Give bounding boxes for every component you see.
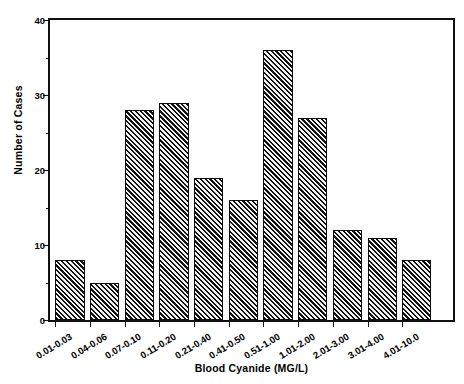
x-axis-tick-label: 4.01-10.0 xyxy=(381,331,421,361)
x-axis-tick-label: 0.04-0.06 xyxy=(68,331,108,361)
x-axis-tick xyxy=(125,320,126,327)
y-axis-minor-tick xyxy=(46,283,50,284)
y-axis-tick-label: 0 xyxy=(40,315,45,326)
bar xyxy=(263,50,292,320)
bar xyxy=(55,260,84,320)
x-axis-tick-label: 0.01-0.03 xyxy=(34,331,74,361)
y-axis-tick-label: 10 xyxy=(34,240,45,251)
y-axis-minor-tick xyxy=(46,133,50,134)
x-axis-tick xyxy=(194,320,195,327)
bar-chart-figure: Number of Cases 010203040 Blood Cyanide … xyxy=(0,0,464,384)
x-axis-tick xyxy=(229,320,230,327)
y-axis-tick-label: 30 xyxy=(34,90,45,101)
x-axis-tick xyxy=(90,320,91,327)
bar xyxy=(90,283,119,321)
x-axis-tick-label: 3.01-4.00 xyxy=(346,331,386,361)
x-axis-tick xyxy=(263,320,264,327)
bar xyxy=(368,238,397,321)
x-axis-tick xyxy=(333,320,334,327)
x-axis-tick-label: 0.51-1.00 xyxy=(242,331,282,361)
bar xyxy=(159,103,188,321)
x-axis-tick-label: 0.07-0.10 xyxy=(103,331,143,361)
x-axis-tick-label: 0.11-0.20 xyxy=(138,331,178,361)
x-axis-tick-label: 1.01-2.00 xyxy=(276,331,316,361)
y-axis-title: Number of Cases xyxy=(12,60,24,200)
bar xyxy=(298,118,327,321)
x-axis-tick xyxy=(368,320,369,327)
plot-area: 010203040 xyxy=(48,18,455,322)
y-axis-minor-tick xyxy=(46,208,50,209)
x-axis-title: Blood Cyanide (MG/L) xyxy=(48,362,455,374)
bar xyxy=(125,110,154,320)
y-axis-minor-tick xyxy=(46,58,50,59)
x-axis-tick-label: 0.41-0.50 xyxy=(207,331,247,361)
bar xyxy=(229,200,258,320)
x-axis-tick xyxy=(159,320,160,327)
x-axis-tick-label: 2.01-3.00 xyxy=(311,331,351,361)
bar xyxy=(402,260,431,320)
x-axis-tick xyxy=(402,320,403,327)
bar-series xyxy=(50,20,453,320)
bar xyxy=(333,230,362,320)
y-axis-tick-label: 40 xyxy=(34,15,45,26)
bar xyxy=(194,178,223,321)
x-axis-tick-label: 0.21-0.40 xyxy=(172,331,212,361)
y-axis-tick-label: 20 xyxy=(34,165,45,176)
x-axis-tick xyxy=(55,320,56,327)
x-axis-tick xyxy=(298,320,299,327)
